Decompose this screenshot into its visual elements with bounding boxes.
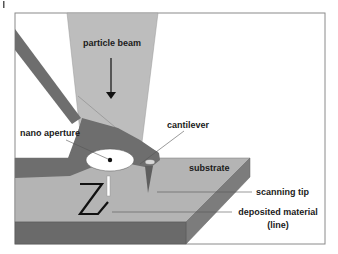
label-deposited-material-line1: deposited material [236, 207, 320, 217]
label-nano-aperture: nano aperture [20, 128, 80, 138]
label-scanning-tip: scanning tip [256, 187, 309, 197]
deposition-column [107, 176, 110, 196]
label-particle-beam: particle beam [83, 38, 141, 48]
page-marker [3, 1, 5, 8]
tip-mount [145, 160, 155, 165]
label-cantilever: cantilever [167, 120, 209, 130]
label-deposited-material-line2: (line) [236, 220, 320, 230]
label-substrate: substrate [189, 163, 230, 173]
label-deposited-material: deposited material (line) [236, 207, 320, 230]
nano-aperture-dot [108, 158, 112, 162]
substrate-front-face [15, 222, 186, 244]
